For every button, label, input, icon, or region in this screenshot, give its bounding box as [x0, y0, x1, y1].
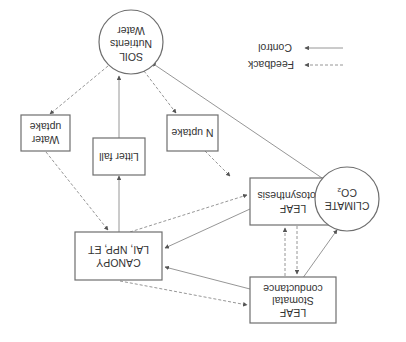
stomatal-label-3: conductance [263, 283, 323, 295]
soil-label-1: SOIL [119, 51, 143, 63]
edge-canopy-photosynthesis [130, 195, 247, 232]
stomatal-label-2: Stomatal [272, 295, 313, 307]
ecosystem-diagram: SOIL Nutrients Water Water uptake Litter… [0, 0, 406, 342]
node-leaf-stomatal: LEAF Stomatal conductance [250, 277, 336, 323]
node-litter-fall: Litter fall [93, 138, 145, 175]
edge-soil-n-uptake [144, 71, 176, 113]
legend-feedback-label: Feedback [247, 59, 294, 71]
canopy-label-2: LAI, NPP, ET [87, 244, 149, 256]
edge-n-uptake-photosynthesis [205, 151, 230, 176]
soil-label-3: Water [117, 25, 145, 37]
water-uptake-label-1: Water [31, 134, 59, 146]
node-canopy: CANOPY LAI, NPP, ET [75, 232, 162, 280]
edge-soil-water-uptake [50, 66, 108, 114]
node-climate: CLIMATE CO₂ [315, 167, 379, 231]
edge-photosynthesis-canopy [165, 209, 250, 248]
edge-canopy-stomatal [120, 281, 247, 305]
stomatal-label-1: LEAF [280, 307, 306, 319]
soil-label-2: Nutrients [110, 38, 152, 50]
node-soil: SOIL Nutrients Water [99, 10, 163, 74]
node-n-uptake: N uptake [167, 115, 218, 151]
water-uptake-label-2: uptake [30, 121, 62, 133]
climate-label-1: CLIMATE [325, 200, 370, 212]
climate-label-2: CO₂ [337, 187, 357, 199]
node-water-uptake: Water uptake [21, 115, 70, 151]
edge-stomatal-canopy [165, 267, 250, 289]
canopy-label-1: CANOPY [96, 257, 140, 269]
legend: Control Feedback [247, 42, 343, 71]
legend-control-label: Control [258, 42, 292, 54]
photosynthesis-label-1: LEAF [280, 203, 306, 215]
n-uptake-label: N uptake [171, 127, 213, 139]
litter-fall-label: Litter fall [99, 151, 139, 163]
